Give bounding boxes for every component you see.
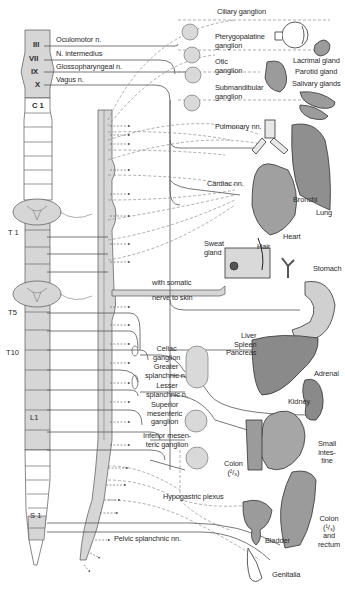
label-segment-t10: T10 [6,348,19,357]
parotid-gland-icon [265,61,287,92]
label-adrenal: Adrenal [314,370,339,379]
label-segment-s1: S 1 [30,511,41,520]
mini-ganglia [132,346,138,389]
label-segment-c1: C 1 [32,101,44,110]
label-segment-l1: L1 [30,413,38,422]
label-colon-two-thirds: Colon (²/₃) [224,460,243,477]
cranial-numeral-ix: IX [31,67,38,76]
sympathetic-trunk [80,110,116,560]
label-n-intermedius: N. intermedius [56,50,102,59]
label-heart: Heart [283,233,301,242]
label-superior-mesenteric-ganglion: Superior mesenteric ganglion [147,401,182,427]
label-oculomotor-nerve: Oculomotor n. [56,36,101,45]
label-parotid-gland: Parotid gland [295,68,337,77]
stomach-icon [292,281,335,341]
label-lacrimal-gland: Lacrimal gland [293,57,340,66]
label-vagus-nerve: Vagus n. [56,76,84,85]
eye-icon [275,22,308,48]
heart-icon [252,164,296,235]
label-salivary-glands: Salivary glands [292,80,341,89]
cranial-numeral-vii: VII [29,54,38,63]
label-bladder: Bladder [265,537,290,546]
lacrimal-gland-icon [314,40,330,56]
label-small-intestine: Small intes- tine [318,440,336,466]
label-colon-one-third-rectum: Colon (¹/₃) and rectum [318,515,340,549]
label-genitalia: Genitalia [272,571,300,580]
label-nerve-to-skin: nerve to skin [152,294,193,303]
label-pterygopalatine-ganglion: Pterygopalatine ganglion [215,33,265,50]
label-pelvic-splanchnic-nerves: Pelvic splanchnic nn. [114,535,181,544]
small-intestine-icon [260,411,305,470]
label-hypogastric-plexus: Hypogastric plexus [163,493,224,502]
label-glossopharyngeal-nerve: Glossopharyngeal n. [56,63,122,72]
label-pulmonary-nerves: Pulmonary nn. [215,123,261,132]
organs [225,22,335,582]
label-hair: Hair [257,243,270,252]
label-greater-splanchnic-nerve: Greater splanchnic n. [145,363,187,380]
colon-upper-icon [246,420,262,470]
spinal-cord [13,30,92,565]
genitalia-icon [247,548,262,582]
label-lung: Lung [316,209,332,218]
cranial-numeral-iii: III [33,40,39,49]
label-with-somatic: with somatic [152,279,191,288]
label-kidney: Kidney [288,398,310,407]
label-lesser-splanchnic-nerve: Lesser splanchnic n. [146,382,188,399]
label-sweat-gland: Sweat gland [204,240,224,257]
label-inferior-mesenteric-ganglion: Inferior mesen- teric ganglion [143,432,191,449]
label-submandibular-ganglion: Submandibular ganglion [215,84,263,101]
label-stomach: Stomach [313,265,341,274]
label-segment-t5: T5 [8,308,17,317]
label-celiac-ganglion: Celiac ganglion [153,345,180,362]
label-cardiac-nerves: Cardiac nn. [207,180,244,189]
label-segment-t1: T 1 [8,228,19,237]
label-liver-spleen-pancreas: Liver Spleen Pancreas [226,332,256,358]
label-bronchi: Bronchi [293,196,317,205]
cranial-numeral-x: X [35,80,40,89]
label-otic-ganglion: Otic ganglion [215,58,242,75]
label-ciliary-ganglion: Ciliary ganglion [217,8,266,17]
